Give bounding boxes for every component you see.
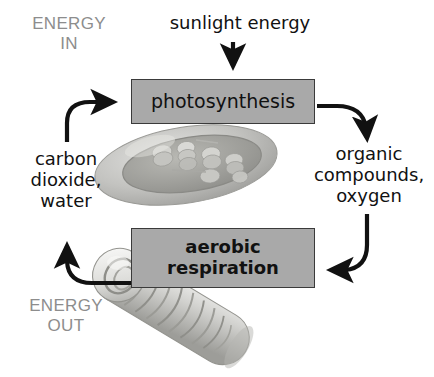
- label-energy-in: ENERGY IN: [14, 14, 124, 54]
- energy-flow-diagram: photosynthesis aerobic respiration ENERG…: [0, 0, 434, 377]
- label-organic-compounds-oxygen: organic compounds, oxygen: [306, 143, 432, 207]
- label-energy-out: ENERGY OUT: [6, 296, 126, 336]
- label-carbon-dioxide-water: carbon dioxide, water: [8, 148, 124, 212]
- label-sunlight-energy: sunlight energy: [140, 12, 340, 33]
- diagram-text-layer: ENERGY IN ENERGY OUT sunlight energy car…: [0, 0, 434, 377]
